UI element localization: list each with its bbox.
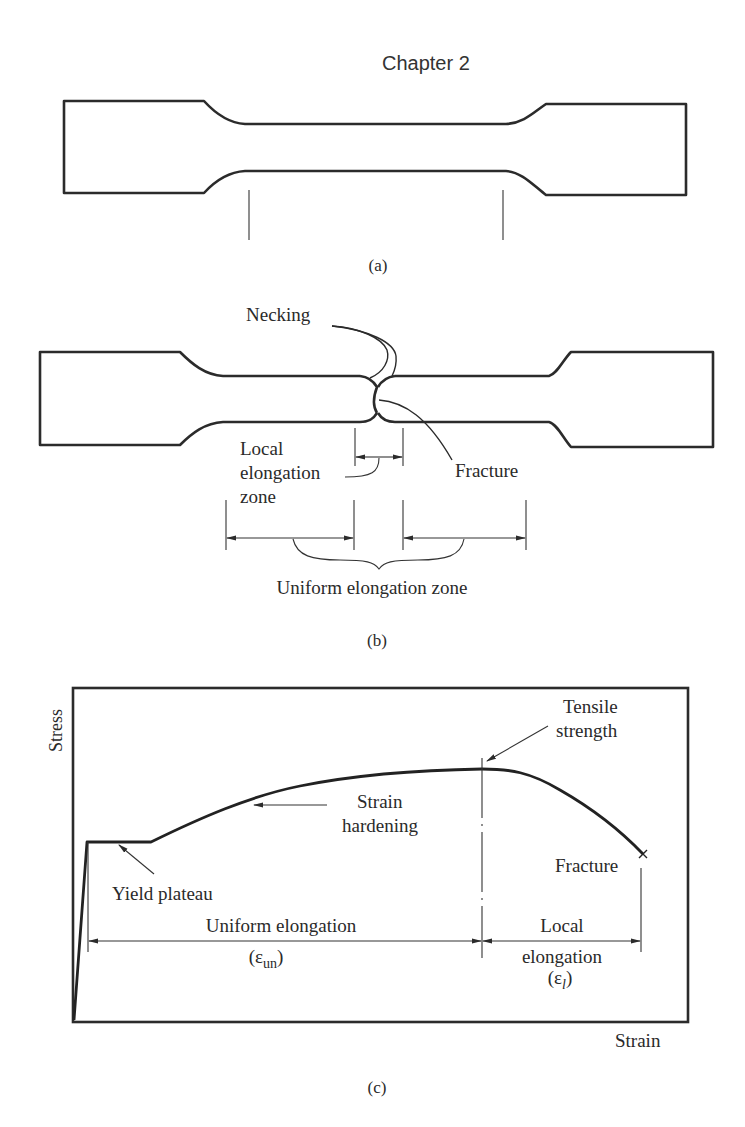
label-local-zone-line3: zone [240, 486, 276, 507]
label-tensile-line1: Tensile [563, 696, 618, 717]
caption-b: (b) [367, 631, 387, 650]
label-local-zone-line2: elongation [240, 462, 321, 483]
label-yield-plateau: Yield plateau [112, 883, 213, 904]
y-axis-label: Stress [46, 709, 66, 752]
uniform-zone-dimension [226, 500, 526, 569]
necking-leader-1 [332, 326, 388, 378]
label-fracture-b: Fracture [455, 460, 518, 481]
label-local-symbol: (εl) [548, 967, 573, 992]
label-local-zone: Local [240, 438, 283, 459]
label-strain-hardening-line1: Strain [357, 791, 403, 812]
label-necking: Necking [246, 304, 311, 325]
label-uniform-elongation: Uniform elongation [206, 915, 357, 936]
label-local-elongation-line2: elongation [522, 946, 603, 967]
tensile-strength-arrow [487, 726, 548, 761]
label-strain-hardening-line2: hardening [342, 815, 418, 836]
x-axis-label: Strain [615, 1030, 661, 1051]
figure-canvas: Chapter 2 (a) Necking Fracture Local elo… [0, 0, 745, 1127]
yield-plateau-arrow [119, 845, 154, 874]
specimen-original [64, 101, 686, 240]
label-fracture-c: Fracture [555, 855, 618, 876]
caption-a: (a) [369, 256, 388, 275]
caption-c: (c) [368, 1078, 387, 1097]
label-uniform-zone: Uniform elongation zone [276, 577, 467, 598]
label-local-elongation-line1: Local [540, 915, 583, 936]
label-uniform-symbol: (εun) [249, 946, 284, 971]
fracture-leader [379, 400, 452, 460]
chapter-header: Chapter 2 [382, 52, 470, 74]
local-zone-leader [345, 458, 379, 477]
label-tensile-line2: strength [556, 720, 618, 741]
specimen-fractured [40, 352, 713, 447]
fracture-marker-icon [639, 850, 647, 858]
